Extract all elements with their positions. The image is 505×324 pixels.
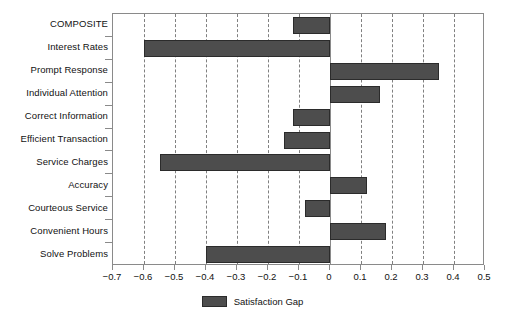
bar-accuracy [330,177,367,194]
category-axis-labels: COMPOSITEInterest RatesPrompt ResponseIn… [0,13,108,265]
y-axis-tick [105,82,112,83]
x-axis-tick [174,265,175,270]
category-label-correct-information: Correct Information [0,111,108,121]
category-label-courteous-service: Courteous Service [0,203,108,213]
bar-interest-rates [144,40,330,57]
satisfaction-gap-bar-chart: COMPOSITEInterest RatesPrompt ResponseIn… [0,0,505,324]
x-axis-tick [329,265,330,270]
category-label-efficient-transaction: Efficient Transaction [0,134,108,144]
x-axis-tick [453,265,454,270]
category-label-convenient-hours: Convenient Hours [0,226,108,236]
x-axis-label-0.1: 0.1 [353,271,366,283]
chart-legend: Satisfaction Gap [0,296,505,307]
bar-efficient-transaction [284,132,331,149]
x-axis-label--0.5: −0.5 [165,271,184,283]
x-axis-tick [422,265,423,270]
x-axis-tick [298,265,299,270]
legend-label-satisfaction-gap: Satisfaction Gap [234,296,304,307]
x-axis-label-0.3: 0.3 [415,271,428,283]
x-axis-tick [391,265,392,270]
x-axis-tick [360,265,361,270]
gridline [392,14,393,264]
x-axis-label--0.2: −0.2 [258,271,277,283]
bar-solve-problems [206,246,330,263]
x-axis-tick [267,265,268,270]
category-label-interest-rates: Interest Rates [0,42,108,52]
y-axis-tick [105,242,112,243]
x-axis-label--0.3: −0.3 [227,271,246,283]
x-axis-label--0.6: −0.6 [134,271,153,283]
y-axis-tick [105,219,112,220]
x-axis-label-0.4: 0.4 [446,271,459,283]
category-label-service-charges: Service Charges [0,157,108,167]
x-axis-label--0.4: −0.4 [196,271,215,283]
bar-individual-attention [330,86,380,103]
y-axis-tick [105,105,112,106]
x-axis-tick [112,265,113,270]
category-label-individual-attention: Individual Attention [0,88,108,98]
gridline [454,14,455,264]
gridline [423,14,424,264]
bar-courteous-service [305,200,330,217]
x-axis-tick [236,265,237,270]
x-axis-tick [143,265,144,270]
bar-service-charges [160,154,331,171]
bar-correct-information [293,109,330,126]
x-axis-tick [205,265,206,270]
bar-prompt-response [330,63,439,80]
x-axis-tick-labels: −0.7−0.6−0.5−0.4−0.3−0.2−0.100.10.20.30.… [0,271,505,285]
x-axis-label-0.5: 0.5 [477,271,490,283]
plot-area [112,13,484,265]
y-axis-tick [105,150,112,151]
category-label-prompt-response: Prompt Response [0,65,108,75]
x-axis-tick [484,265,485,270]
bar-composite [293,17,330,34]
category-label-composite: COMPOSITE [0,19,108,29]
legend-swatch-satisfaction-gap [202,296,227,307]
category-label-accuracy: Accuracy [0,180,108,190]
y-axis-tick [105,59,112,60]
y-axis-tick [105,128,112,129]
x-axis-label--0.7: −0.7 [103,271,122,283]
x-axis-label-0.2: 0.2 [384,271,397,283]
y-axis-tick [105,36,112,37]
x-axis-label--0.1: −0.1 [289,271,308,283]
y-axis-tick [105,173,112,174]
x-axis-label-0: 0 [326,271,331,283]
y-axis-tick [105,196,112,197]
category-label-solve-problems: Solve Problems [0,249,108,259]
bar-convenient-hours [330,223,386,240]
